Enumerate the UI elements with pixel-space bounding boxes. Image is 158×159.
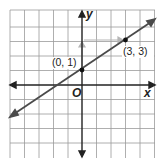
x-axis-left-arrow-icon [10,82,16,88]
y-axis [79,11,85,157]
y-axis-label: y [85,7,94,21]
point-3-3 [123,38,128,43]
point-label-0-1: (0, 1) [52,56,77,68]
coordinate-graph: (0, 1) (3, 3) y x O [0,0,158,159]
y-axis-down-arrow-icon [79,151,85,157]
point-0-1 [80,68,85,73]
point-label-3-3: (3, 3) [123,45,148,57]
y-axis-up-arrow-icon [79,11,85,17]
origin-label: O [72,86,82,100]
x-axis-label: x [143,86,152,100]
